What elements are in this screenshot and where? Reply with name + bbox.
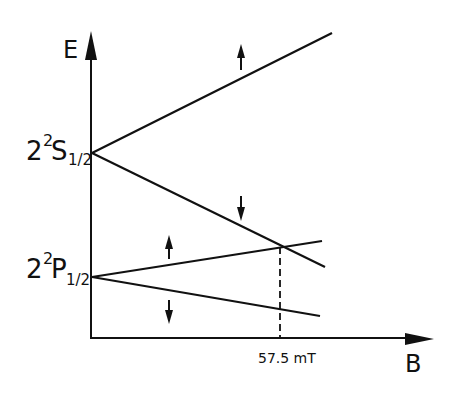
s-level-spin-up-line xyxy=(92,33,332,153)
energy-axis-arrowhead xyxy=(85,31,97,60)
spin-up-arrow-icon xyxy=(165,235,173,259)
zeeman-diagram: E B 57.5 mT 2 2 S 1/2 2 2 P 1/2 xyxy=(0,0,451,409)
spin-up-arrow-icon xyxy=(237,44,245,70)
p-level-spin-up-line xyxy=(92,241,322,277)
p-level-letter: P xyxy=(51,254,67,284)
s-level-letter: S xyxy=(51,136,68,166)
spin-down-arrow-icon xyxy=(237,196,245,221)
crossing-field-label: 57.5 mT xyxy=(258,350,316,366)
spin-down-arrow-icon xyxy=(165,300,173,324)
p-level-subscript: 1/2 xyxy=(66,271,90,289)
field-axis-label: B xyxy=(405,350,421,378)
s-level-prefix: 2 xyxy=(26,136,43,166)
s-level-label: 2 2 S 1/2 xyxy=(26,131,92,169)
p-level-spin-down-line xyxy=(92,277,320,316)
s-level-spin-down-line xyxy=(92,153,325,267)
p-level-prefix: 2 xyxy=(26,254,43,284)
s-level-subscript: 1/2 xyxy=(68,151,92,169)
p-level-label: 2 2 P 1/2 xyxy=(26,249,90,289)
field-axis-arrowhead xyxy=(405,333,434,345)
energy-axis-label: E xyxy=(63,36,78,64)
